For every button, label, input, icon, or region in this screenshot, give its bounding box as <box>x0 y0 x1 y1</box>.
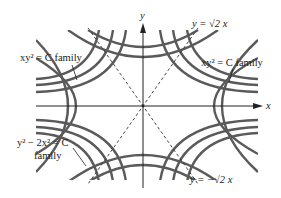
x-axis-arrow-icon <box>253 103 263 109</box>
label-y-neg-sqrt2x: y = −√2 x <box>189 174 233 185</box>
y-axis-arrow-icon <box>140 23 146 33</box>
x-axis-label: x <box>265 100 271 111</box>
label-hyperbola-family-line2: family <box>34 150 62 161</box>
label-y-sqrt2x: y = √2 x <box>191 18 228 29</box>
label-hyperbola-family-line1: y² − 2x² = C <box>17 137 68 148</box>
origin-dot <box>142 105 145 108</box>
label-xy2-family-left: xy² = C family <box>20 52 83 63</box>
orthogonal-trajectories-diagram: x y y = √2 x y = −√2 x xy² = C family xy… <box>0 0 281 198</box>
y-axis-label: y <box>139 10 145 21</box>
label-xy2-family-right: xy² = C family <box>201 57 264 68</box>
